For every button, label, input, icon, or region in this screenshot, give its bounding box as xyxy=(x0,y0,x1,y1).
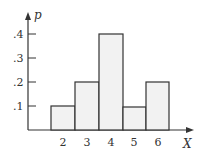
x-tick-labels: 2 3 4 5 6 xyxy=(60,136,162,149)
x-axis-title: X xyxy=(182,137,192,151)
bars xyxy=(51,34,169,130)
y-axis-title: p xyxy=(34,8,42,22)
y-ticks: .1 .2 .3 .4 xyxy=(13,28,36,113)
y-tick-label: .3 xyxy=(13,52,24,65)
probability-histogram: p X .1 .2 .3 .4 2 3 4 5 6 xyxy=(0,0,205,153)
bar-x-4 xyxy=(99,34,123,130)
y-axis-arrow-icon xyxy=(25,12,31,20)
bar-x-3 xyxy=(75,82,99,130)
y-tick-label: .2 xyxy=(13,76,24,89)
x-tick-label: 4 xyxy=(108,136,115,149)
y-tick-label: .1 xyxy=(13,100,24,113)
y-tick-label: .4 xyxy=(13,28,24,41)
bar-x-2 xyxy=(51,106,75,130)
x-tick-label: 6 xyxy=(155,136,162,149)
bar-x-5 xyxy=(123,107,146,130)
x-tick-label: 2 xyxy=(60,136,67,149)
x-tick-label: 3 xyxy=(84,136,91,149)
bar-x-6 xyxy=(146,82,169,130)
x-tick-label: 5 xyxy=(131,136,138,149)
x-axis-arrow-icon xyxy=(186,127,194,133)
